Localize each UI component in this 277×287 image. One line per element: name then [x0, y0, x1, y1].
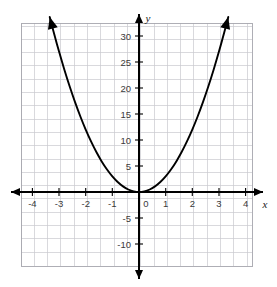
x-tick-label: 1: [163, 198, 168, 209]
coordinate-plane-chart: -4 -3 -2 -1 0 1 2 3 4 30 25 20 15 10 5 -…: [0, 0, 277, 287]
y-tick-label: -10: [117, 239, 131, 250]
y-tick-label: 25: [120, 57, 131, 68]
y-axis-label: y: [145, 12, 151, 24]
y-tick-label: 15: [120, 109, 131, 120]
x-tick-label: 4: [243, 198, 248, 209]
y-tick-label: 5: [126, 161, 131, 172]
x-tick-label: 2: [190, 198, 195, 209]
origin-label: 0: [143, 198, 148, 209]
x-tick-label: -3: [55, 198, 63, 209]
x-tick-label: -1: [108, 198, 116, 209]
x-tick-label: -4: [28, 198, 36, 209]
graph-container: -4 -3 -2 -1 0 1 2 3 4 30 25 20 15 10 5 -…: [0, 0, 277, 287]
x-tick-label: 3: [216, 198, 221, 209]
y-tick-label: 30: [120, 31, 131, 42]
y-tick-label: -5: [123, 213, 131, 224]
x-tick-label: -2: [81, 198, 89, 209]
y-tick-label: 10: [120, 135, 131, 146]
y-tick-label: 20: [120, 83, 131, 94]
x-axis-label: x: [262, 198, 268, 210]
